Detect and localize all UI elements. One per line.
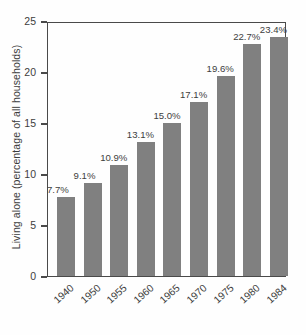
y-tick-label: 25 bbox=[0, 16, 36, 27]
y-tick-label: 20 bbox=[0, 67, 36, 78]
plot-area bbox=[47, 22, 286, 277]
bar-chart-figure: Living alone (percentage of all househol… bbox=[0, 0, 306, 335]
bar bbox=[110, 165, 128, 276]
bar-value-label: 10.9% bbox=[100, 153, 127, 163]
x-tick-label: 1940 bbox=[47, 283, 76, 311]
x-tick-label: 1960 bbox=[127, 283, 156, 311]
bar-value-label: 15.0% bbox=[153, 111, 180, 121]
bar bbox=[243, 44, 261, 276]
bar-value-label: 19.6% bbox=[207, 64, 234, 74]
x-tick-label: 1984 bbox=[260, 283, 289, 311]
bar bbox=[57, 197, 75, 276]
y-tick-label: 0 bbox=[0, 271, 36, 282]
bar-value-label: 13.1% bbox=[127, 130, 154, 140]
bar bbox=[270, 37, 288, 276]
x-tick-label: 1970 bbox=[180, 283, 209, 311]
bar-value-label: 23.4% bbox=[260, 25, 287, 35]
x-tick-label: 1975 bbox=[206, 283, 235, 311]
bar bbox=[217, 76, 235, 276]
bar-value-label: 9.1% bbox=[74, 171, 96, 181]
bar-value-label: 7.7% bbox=[47, 185, 69, 195]
bar bbox=[84, 183, 102, 276]
bar-value-label: 22.7% bbox=[233, 32, 260, 42]
y-tick-label: 10 bbox=[0, 169, 36, 180]
y-axis-title: Living alone (percentage of all househol… bbox=[10, 2, 24, 292]
x-tick-label: 1965 bbox=[153, 283, 182, 311]
x-tick-label: 1980 bbox=[233, 283, 262, 311]
bar bbox=[163, 123, 181, 276]
bar bbox=[190, 102, 208, 276]
x-tick-label: 1955 bbox=[100, 283, 129, 311]
bar-value-label: 17.1% bbox=[180, 90, 207, 100]
y-tick-label: 5 bbox=[0, 220, 36, 231]
y-tick-label: 15 bbox=[0, 118, 36, 129]
bar bbox=[137, 142, 155, 276]
x-tick-label: 1950 bbox=[73, 283, 102, 311]
